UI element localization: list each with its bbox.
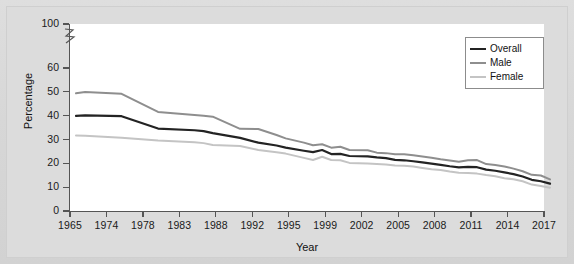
x-tick-label-1999: 1999 (313, 219, 337, 231)
x-tick-label-1978: 1978 (131, 219, 155, 231)
legend-item-male[interactable]: Male (470, 56, 539, 70)
chart-legend: OverallMaleFemale (465, 37, 544, 89)
x-tick-label-1965: 1965 (58, 219, 82, 231)
y-tick-label-100: 100 (7, 17, 59, 29)
x-tick-2002 (361, 211, 362, 217)
legend-label-female: Female (490, 70, 523, 84)
x-tick-label-1995: 1995 (277, 219, 301, 231)
y-tick-30 (63, 139, 69, 140)
x-tick-2008 (434, 211, 435, 217)
x-tick-1978 (142, 211, 143, 217)
y-tick-100 (63, 23, 69, 24)
y-tick-50 (63, 91, 69, 92)
x-tick-label-2014: 2014 (496, 219, 520, 231)
y-axis-line (69, 24, 70, 212)
x-tick-label-1988: 1988 (204, 219, 228, 231)
x-tick-label-1974: 1974 (95, 219, 119, 231)
x-axis-label: Year (70, 241, 544, 253)
x-tick-label-2017: 2017 (532, 219, 556, 231)
x-tick-2011 (470, 211, 471, 217)
y-tick-40 (63, 115, 69, 116)
x-tick-1965 (69, 211, 70, 217)
x-tick-label-2002: 2002 (350, 219, 374, 231)
x-tick-1983 (179, 211, 180, 217)
y-tick-0 (63, 210, 69, 211)
y-tick-label-0: 0 (7, 204, 59, 216)
x-tick-label-1992: 1992 (240, 219, 264, 231)
x-tick-label-2005: 2005 (386, 219, 410, 231)
y-axis-label: Percentage (22, 56, 34, 146)
x-tick-1995 (288, 211, 289, 217)
x-tick-2017 (543, 211, 544, 217)
x-tick-label-1983: 1983 (167, 219, 191, 231)
y-tick-10 (63, 187, 69, 188)
chart-inner-panel: 0102030405060100 19651974197819831988199… (6, 6, 568, 258)
x-tick-2014 (507, 211, 508, 217)
y-tick-60 (63, 67, 69, 68)
x-axis-line (69, 211, 545, 212)
x-tick-1992 (252, 211, 253, 217)
legend-swatch-female-icon (470, 76, 486, 78)
y-axis-break-icon (63, 27, 77, 45)
legend-label-male: Male (490, 56, 512, 70)
y-tick-label-10: 10 (7, 180, 59, 192)
legend-label-overall: Overall (490, 42, 522, 56)
x-tick-1974 (106, 211, 107, 217)
legend-item-female[interactable]: Female (470, 70, 539, 84)
legend-swatch-overall-icon (470, 48, 486, 50)
legend-swatch-male-icon (470, 62, 486, 64)
x-tick-1999 (325, 211, 326, 217)
y-tick-label-20: 20 (7, 156, 59, 168)
x-tick-2005 (398, 211, 399, 217)
y-tick-20 (63, 163, 69, 164)
x-tick-label-2008: 2008 (423, 219, 447, 231)
legend-item-overall[interactable]: Overall (470, 42, 539, 56)
chart-figure: 0102030405060100 19651974197819831988199… (0, 0, 574, 264)
x-tick-label-2011: 2011 (460, 219, 483, 231)
x-tick-1988 (215, 211, 216, 217)
